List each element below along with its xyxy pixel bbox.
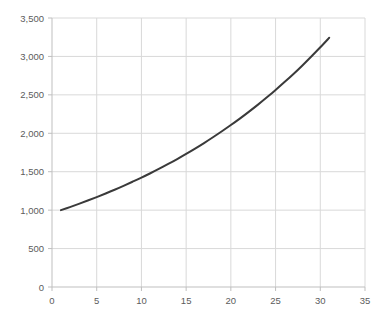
x-axis-tick-label: 25: [270, 295, 281, 306]
y-axis-ticks: [48, 18, 52, 287]
y-axis-tick-label: 0: [39, 282, 44, 293]
x-axis-tick-label: 0: [49, 295, 54, 306]
x-axis-tick-label: 5: [94, 295, 99, 306]
chart-container: 05001,0001,5002,0002,5003,0003,500 05101…: [0, 0, 387, 324]
y-axis-tick-labels: 05001,0001,5002,0002,5003,0003,500: [20, 13, 44, 293]
x-axis-tick-label: 10: [136, 295, 147, 306]
line-chart: 05001,0001,5002,0002,5003,0003,500 05101…: [0, 0, 387, 324]
y-axis-tick-label: 2,500: [20, 89, 44, 100]
y-axis-tick-label: 3,500: [20, 13, 44, 24]
x-axis-ticks: [52, 287, 365, 291]
x-axis-tick-label: 35: [360, 295, 371, 306]
x-axis-tick-labels: 05101520253035: [49, 295, 370, 306]
x-axis-tick-label: 20: [226, 295, 237, 306]
plot-background: [52, 18, 365, 287]
y-axis-tick-label: 2,000: [20, 128, 44, 139]
y-axis-tick-label: 1,500: [20, 166, 44, 177]
y-axis-tick-label: 500: [28, 243, 44, 254]
x-axis-tick-label: 30: [315, 295, 326, 306]
y-axis-tick-label: 3,000: [20, 51, 44, 62]
y-axis-tick-label: 1,000: [20, 205, 44, 216]
x-axis-tick-label: 15: [181, 295, 192, 306]
